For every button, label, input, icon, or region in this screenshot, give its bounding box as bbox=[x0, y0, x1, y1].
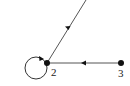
arrow-head-icon bbox=[81, 61, 86, 66]
node-3-label: 3 bbox=[118, 67, 124, 79]
graph-diagram: 2 3 bbox=[0, 0, 130, 86]
node-2 bbox=[44, 60, 50, 66]
node-3 bbox=[118, 60, 124, 66]
edge-top-to-2 bbox=[47, 0, 86, 63]
self-loop-2 bbox=[25, 57, 47, 79]
node-2-label: 2 bbox=[51, 66, 57, 78]
